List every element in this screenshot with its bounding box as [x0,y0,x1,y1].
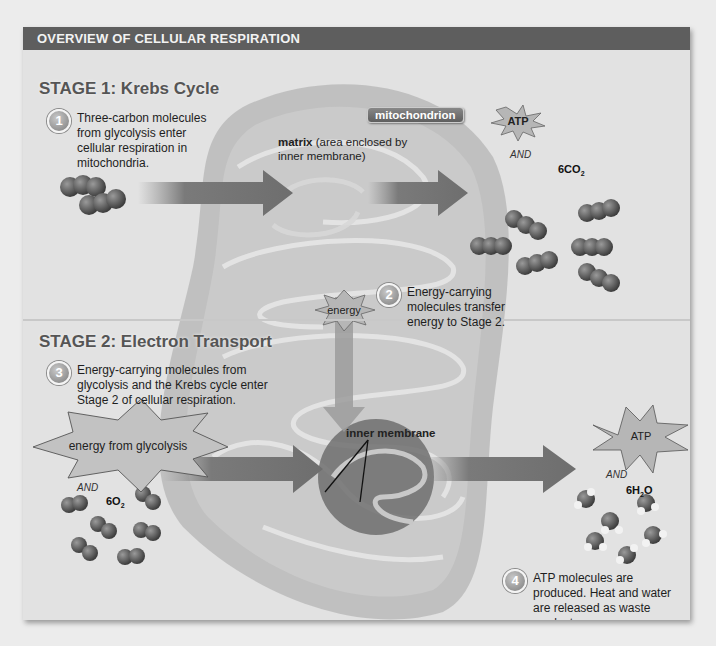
co2-formula: 6CO2 [558,163,585,177]
step-number-badge: 1 [47,109,71,133]
step-number-badge: 4 [503,569,527,593]
step-3-text: Energy-carrying molecules from glycolysi… [77,363,292,408]
o2-formula: 6O2 [106,495,125,509]
stage-divider [23,319,690,321]
and-label-input: AND [77,482,98,493]
matrix-term: matrix [278,136,313,148]
water-molecules [574,488,667,564]
matrix-label: matrix (area enclosed by inner membrane) [278,135,418,163]
and-label-stage1: AND [510,149,531,160]
step-1: 1 Three-carbon molecules from glycolysis… [47,111,222,171]
step-4-text: ATP molecules are produced. Heat and wat… [533,571,688,620]
stage1-title: STAGE 1: Krebs Cycle [39,79,219,99]
stage2-title: STAGE 2: Electron Transport [39,332,272,352]
atp-label-stage2: ATP [621,430,661,442]
mitochondrion-tag: mitochondrion [367,107,464,123]
energy-from-glycolysis-label: energy from glycolysis [53,439,203,453]
step-1-text: Three-carbon molecules from glycolysis e… [77,111,222,171]
step-2: 2 Energy-carrying molecules transfer ene… [377,285,527,330]
step-3: 3 Energy-carrying molecules from glycoly… [47,363,292,408]
inner-membrane-label: inner membrane [346,426,435,440]
step-number-badge: 3 [47,361,71,385]
atp-label-stage1: ATP [503,115,533,127]
energy-label: energy [322,304,366,316]
diagram-panel: OVERVIEW OF CELLULAR RESPIRATION [23,27,690,620]
step-2-text: Energy-carrying molecules transfer energ… [407,285,527,330]
three-carbon-molecules [60,175,126,215]
and-label-output: AND [606,469,627,480]
h2o-formula: 6H2O [626,484,653,498]
step-number-badge: 2 [377,283,401,307]
step-4: 4 ATP molecules are produced. Heat and w… [503,571,688,620]
